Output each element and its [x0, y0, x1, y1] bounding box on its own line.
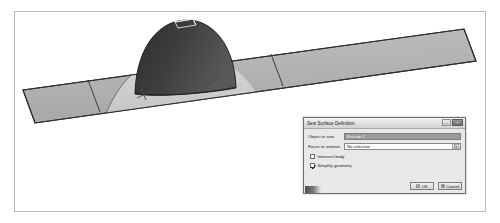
simplify-geometry-row[interactable]: Simplify geometry: [310, 162, 461, 169]
object-to-sew-row: Object to sew Extrude.1: [308, 133, 461, 140]
faces-to-remove-field[interactable]: No selection: [344, 143, 461, 150]
cancel-icon: [441, 184, 445, 188]
faces-to-remove-value: No selection: [347, 144, 370, 149]
cancel-button[interactable]: Cancel: [438, 182, 462, 190]
sew-surface-definition-dialog[interactable]: Sew Surface Definition – × Object to sew…: [303, 117, 466, 194]
object-to-sew-label: Object to sew: [308, 134, 344, 139]
ok-button[interactable]: OK: [410, 182, 434, 190]
dialog-window-controls: – ×: [442, 119, 463, 126]
intersect-body-label: Intersect body: [318, 154, 345, 159]
dome-group: [135, 20, 236, 95]
screenshot-root: Sew Surface Definition – × Object to sew…: [0, 0, 500, 223]
intersect-body-checkbox[interactable]: [310, 154, 315, 159]
dome-face: [135, 20, 236, 95]
dialog-title: Sew Surface Definition: [307, 121, 355, 126]
close-icon: ×: [456, 121, 458, 125]
object-to-sew-field[interactable]: Extrude.1: [344, 133, 461, 140]
intersect-body-row[interactable]: Intersect body: [310, 153, 461, 160]
ok-button-label: OK: [422, 184, 428, 189]
dialog-body: Object to sew Extrude.1 Faces to remove …: [304, 129, 465, 194]
dialog-corner-artifact: [305, 186, 321, 193]
selection-picker-icon[interactable]: [452, 144, 460, 149]
faces-to-remove-row: Faces to remove No selection: [308, 143, 461, 150]
dialog-titlebar[interactable]: Sew Surface Definition – ×: [304, 118, 465, 129]
simplify-geometry-label: Simplify geometry: [318, 163, 352, 168]
ok-icon: [416, 184, 420, 188]
close-button[interactable]: ×: [452, 119, 463, 126]
minimize-button[interactable]: –: [442, 119, 451, 126]
cancel-button-label: Cancel: [446, 184, 459, 189]
plane-face: [23, 29, 476, 123]
faces-to-remove-label: Faces to remove: [308, 144, 344, 149]
minimize-icon: –: [445, 121, 447, 125]
simplify-geometry-checkbox[interactable]: [310, 163, 315, 168]
dialog-footer: OK Cancel: [410, 182, 462, 190]
